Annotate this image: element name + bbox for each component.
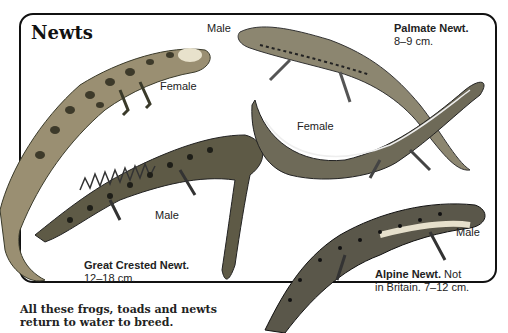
footer-caption: All these frogs, toads and newts return … xyxy=(20,303,217,329)
alpine-male-label: Male xyxy=(456,226,480,238)
caption-line-1: All these frogs, toads and newts xyxy=(20,303,217,316)
great-crested-male-label: Male xyxy=(155,209,179,221)
palmate-female-newt-illustration xyxy=(252,82,484,179)
alpine-newt-caption: Alpine Newt. Not in Britain. 7–12 cm. xyxy=(375,268,469,294)
palmate-newt-caption: Palmate Newt. 8–9 cm. xyxy=(394,22,469,48)
great-crested-newt-size: 12–18 cm. xyxy=(84,272,135,284)
great-crested-male-newt-illustration xyxy=(35,135,263,279)
great-crested-newt-caption: Great Crested Newt. 12–18 cm. xyxy=(84,259,189,285)
great-crested-newt-name: Great Crested Newt. xyxy=(84,259,189,271)
palmate-male-label: Male xyxy=(207,22,231,34)
alpine-newt-name: Alpine Newt. xyxy=(375,268,441,280)
alpine-newt-size: in Britain. 7–12 cm. xyxy=(375,281,469,293)
palmate-newt-name: Palmate Newt. xyxy=(394,22,469,34)
alpine-newt-note: Not xyxy=(444,268,461,280)
palmate-newt-size: 8–9 cm. xyxy=(394,35,433,47)
caption-line-2: return to water to breed. xyxy=(20,316,173,329)
page-title: Newts xyxy=(31,22,93,43)
great-crested-female-label: Female xyxy=(160,80,197,92)
palmate-female-label: Female xyxy=(297,120,334,132)
